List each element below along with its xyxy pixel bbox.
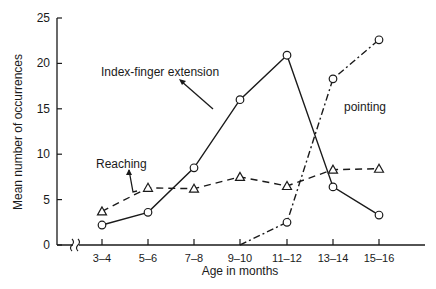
- y-tick-label: 10: [37, 147, 51, 161]
- circle-marker-icon: [98, 221, 106, 229]
- triangle-marker-icon: [375, 164, 384, 172]
- y-tick-label: 20: [37, 56, 51, 70]
- annotation-reaching: Reaching: [96, 157, 147, 171]
- y-tick-label: 0: [43, 238, 50, 252]
- x-tick-label: 13–14: [318, 252, 349, 264]
- x-tick-label: 9–10: [228, 252, 252, 264]
- circle-marker-icon: [375, 211, 383, 219]
- series-line-0: [102, 55, 379, 225]
- circle-marker-icon: [329, 183, 337, 191]
- circle-marker-icon: [190, 164, 198, 172]
- y-axis-label: Mean number of occurrences: [11, 54, 25, 210]
- x-tick-label: 3–4: [93, 252, 111, 264]
- x-axis-label: Age in months: [202, 264, 279, 278]
- x-tick-label: 7–8: [185, 252, 203, 264]
- circle-marker-icon: [375, 36, 383, 44]
- circle-marker-icon: [283, 219, 291, 227]
- annotation-pointing: pointing: [344, 100, 386, 114]
- annotations: Index-finger extension Reaching pointing: [96, 65, 386, 192]
- circle-marker-icon: [329, 75, 337, 83]
- y-tick-label: 5: [43, 193, 50, 207]
- circle-marker-icon: [144, 209, 152, 217]
- chart-canvas: 05101520253–45–67–89–1011–1213–1415–16 I…: [0, 0, 436, 289]
- axes: 05101520253–45–67–89–1011–1213–1415–16: [37, 11, 425, 264]
- y-tick-label: 15: [37, 102, 51, 116]
- circle-marker-icon: [236, 96, 244, 104]
- circle-marker-icon: [283, 51, 291, 59]
- triangle-marker-icon: [98, 207, 107, 215]
- x-tick-label: 5–6: [139, 252, 157, 264]
- x-tick-label: 11–12: [272, 252, 302, 264]
- line-chart: 05101520253–45–67–89–1011–1213–1415–16 I…: [0, 0, 436, 289]
- annotation-index-finger: Index-finger extension: [101, 65, 219, 79]
- y-tick-label: 25: [37, 11, 51, 25]
- annotation-arrow-index: [181, 81, 213, 109]
- series-line-2: [240, 40, 379, 245]
- x-tick-label: 15–16: [364, 252, 395, 264]
- triangle-marker-icon: [236, 172, 245, 180]
